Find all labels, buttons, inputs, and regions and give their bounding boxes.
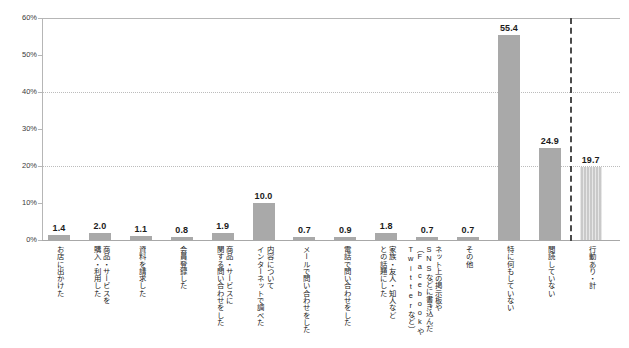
x-axis-category-label: 家族・友人・知人などとの話題にした: [378, 245, 397, 345]
y-axis-tick-label: 40%: [0, 87, 42, 97]
category-label-line: メールで問い合わせをした: [301, 245, 310, 345]
bar-value-label: 1.9: [193, 221, 253, 231]
bar-value-label: 0.7: [438, 225, 498, 235]
category-separator-line: [570, 18, 572, 241]
bar-value-label: 55.4: [479, 23, 539, 33]
bar-column: 1.4: [48, 18, 70, 240]
x-axis-category-label: 行動あり・計: [587, 245, 597, 345]
x-axis-category-label: 商品・サービスを購入・利用した: [91, 245, 110, 345]
x-axis-category-label: 資料を請求した: [137, 245, 147, 345]
bar-column: 0.7: [293, 18, 315, 240]
category-label-line: との話題にした: [379, 245, 388, 345]
bar-column: 0.7: [416, 18, 438, 240]
x-axis-category-label: 商品・サービスに関する問い合わせをした: [214, 245, 233, 345]
bar-column: 10.0: [253, 18, 275, 240]
x-axis-category-label: 特に何もしていない: [505, 245, 515, 345]
bar-column: 0.9: [334, 18, 356, 240]
bar: [580, 167, 602, 240]
category-label-line: （FacebookやTwitterなど）: [406, 245, 424, 345]
bar-column: 1.8: [375, 18, 397, 240]
bar: [539, 148, 561, 240]
bar-column: 1.9: [212, 18, 234, 240]
bar: [293, 237, 315, 240]
bar: [416, 237, 438, 240]
bar: [253, 203, 275, 240]
bar: [457, 237, 479, 240]
y-axis-tick-label: 0%: [0, 235, 42, 245]
category-label-line: 購入・利用した: [92, 245, 101, 345]
category-label-line: 会員登録した: [178, 245, 187, 345]
bar-column: 2.0: [89, 18, 111, 240]
bar-value-label: 24.9: [520, 136, 580, 146]
y-axis-tick-label: 50%: [0, 50, 42, 60]
bar-column: 1.1: [130, 18, 152, 240]
plot-area: [42, 18, 620, 240]
category-label-line: 特に何もしていない: [506, 245, 515, 345]
x-axis-category-label: お店に出かけた: [55, 245, 65, 345]
category-label-line: お店に出かけた: [56, 245, 65, 345]
bar-chart: 0%10%20%30%40%50%60% 1.42.01.10.81.910.0…: [0, 0, 629, 348]
bar: [212, 233, 234, 240]
y-axis-tick-label: 30%: [0, 124, 42, 134]
bar-column: 24.9: [539, 18, 561, 240]
y-axis-tick-label: 20%: [0, 161, 42, 171]
x-axis-category-label: メールで問い合わせをした: [301, 245, 311, 345]
category-label-line: 閲読していない: [547, 245, 556, 345]
bar-value-label: 19.7: [561, 155, 621, 165]
x-axis-category-label: 会員登録した: [178, 245, 188, 345]
bar: [498, 35, 520, 240]
category-label-line: 電話で問い合わせをした: [342, 245, 351, 345]
category-label-line: ネット上の掲示板や: [433, 245, 442, 345]
x-axis-category-label: ネット上の掲示板やSNSなどに書き込んだ（FacebookやTwitterなど）: [414, 245, 443, 345]
bar: [130, 236, 152, 240]
bar-column: 19.7: [580, 18, 602, 240]
category-label-line: 商品・サービスに: [224, 245, 233, 345]
bar: [171, 237, 193, 240]
category-label-line: 商品・サービスを: [101, 245, 110, 345]
bar: [334, 237, 356, 240]
category-label-line: SNSなどに書き込んだ: [424, 245, 433, 345]
x-axis-category-label: 電話で問い合わせをした: [342, 245, 352, 345]
category-label-line: 資料を請求した: [138, 245, 147, 345]
x-axis-category-label: その他: [464, 245, 474, 345]
x-axis-baseline: [42, 240, 620, 241]
category-label-line: 家族・友人・知人など: [388, 245, 397, 345]
y-axis-tick-label: 10%: [0, 198, 42, 208]
category-label-line: 関する問い合わせをした: [215, 245, 224, 345]
y-axis-tick-label: 60%: [0, 13, 42, 23]
bar-column: 0.7: [457, 18, 479, 240]
category-label-line: その他: [465, 245, 474, 345]
bar-column: 0.8: [171, 18, 193, 240]
x-axis-category-label: 閲読していない: [546, 245, 556, 345]
bar: [89, 233, 111, 240]
bar: [48, 235, 70, 240]
x-axis-category-label: 内容についてインターネットで調べた: [255, 245, 274, 345]
bar: [375, 233, 397, 240]
category-label-line: 行動あり・計: [587, 245, 596, 345]
category-label-line: 内容について: [265, 245, 274, 345]
bar-column: 55.4: [498, 18, 520, 240]
category-label-line: インターネットで調べた: [256, 245, 265, 345]
bar-value-label: 10.0: [234, 191, 294, 201]
